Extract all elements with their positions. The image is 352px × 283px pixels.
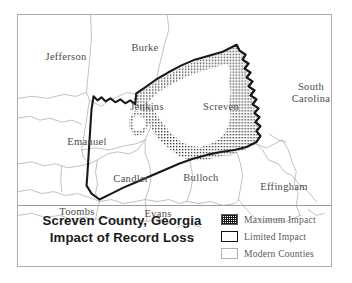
legend-item-maximum-impact: Maximum Impact [221, 211, 331, 227]
thin-outline-swatch-icon [221, 248, 238, 259]
map-figure: Jefferson Burke Jenkins Screven South Ca… [0, 0, 352, 283]
map-title-block: Screven County, Georgia Impact of Record… [24, 213, 220, 246]
legend-panel-divider [18, 205, 331, 206]
map-title-line-2: Impact of Record Loss [24, 230, 220, 247]
legend-label-limited-impact: Limited Impact [244, 231, 306, 242]
thick-outline-swatch-icon [221, 231, 238, 242]
legend-label-maximum-impact: Maximum Impact [244, 214, 316, 225]
legend-item-modern-counties: Modern Counties [221, 245, 331, 261]
stipple-pattern-swatch-icon [221, 214, 238, 225]
map-frame: Jefferson Burke Jenkins Screven South Ca… [17, 14, 332, 267]
legend-label-modern-counties: Modern Counties [244, 248, 314, 259]
legend-item-limited-impact: Limited Impact [221, 228, 331, 244]
map-title-line-1: Screven County, Georgia [24, 213, 220, 230]
map-legend: Maximum Impact Limited Impact Modern Cou… [221, 211, 331, 262]
